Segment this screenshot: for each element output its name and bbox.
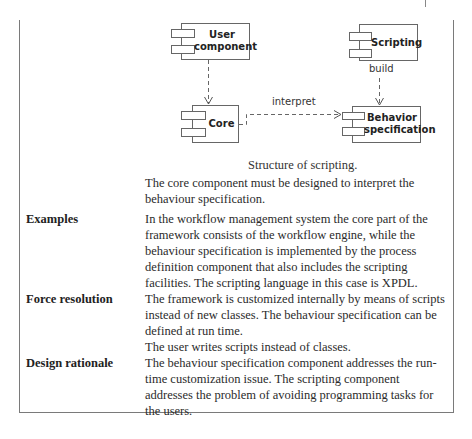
user-component-label: User component: [194, 29, 250, 53]
paragraph: The user writes scripts instead of class…: [145, 339, 450, 355]
intro-text: The core component must be designed to i…: [145, 175, 450, 207]
build-edge-label: build: [369, 63, 394, 74]
scripting-structure-diagram: User component Scripting Core Behavior s…: [0, 0, 472, 160]
section-label-force-resolution: Force resolution: [26, 291, 141, 307]
core-label: Core: [205, 118, 238, 130]
section-label-examples: Examples: [26, 211, 141, 227]
section-body-force-resolution: The framework is customized internally b…: [145, 291, 450, 355]
dependency-arrow-interpret: [239, 115, 341, 125]
section-body-examples: In the workflow management system the co…: [145, 211, 450, 291]
section-body-design-rationale: The behaviour specification component ad…: [145, 355, 450, 419]
paragraph: The framework is customized internally b…: [145, 291, 450, 339]
paragraph: In the workflow management system the co…: [145, 211, 450, 291]
behavior-specification-label: Behavior specification: [364, 112, 420, 136]
interpret-edge-label: interpret: [272, 96, 316, 107]
diagram-graphics: [0, 0, 472, 160]
scripting-label: Scripting: [371, 37, 417, 49]
section-label-design-rationale: Design rationale: [26, 355, 141, 371]
paragraph: The behaviour specification component ad…: [145, 355, 450, 419]
figure-caption: Structure of scripting.: [248, 158, 357, 173]
